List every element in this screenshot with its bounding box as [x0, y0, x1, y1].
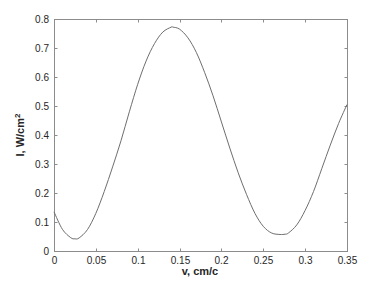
y-tick-label: 0.4 — [35, 130, 49, 141]
x-axis-label: v, cm/c — [182, 265, 219, 277]
y-axis-label-superscript: 2 — [13, 113, 22, 118]
x-tick-label: 0.1 — [132, 255, 146, 266]
x-tick-label: 0.35 — [338, 255, 358, 266]
y-tick-label: 0 — [43, 246, 49, 257]
y-tick-label: 0.2 — [35, 188, 49, 199]
x-tick-label: 0.25 — [254, 255, 274, 266]
y-tick-label: 0.8 — [35, 14, 49, 25]
x-tick-label: 0 — [52, 255, 58, 266]
y-tick-label: 0.7 — [35, 43, 49, 54]
y-tick-label: 0.6 — [35, 72, 49, 83]
y-tick-label: 0.3 — [35, 159, 49, 170]
x-tick-label: 0.05 — [87, 255, 107, 266]
x-tick-label: 0.3 — [299, 255, 313, 266]
data-line — [54, 27, 347, 239]
y-tick-label: 0.5 — [35, 101, 49, 112]
axis-ticks — [55, 20, 348, 252]
y-axis-label: I, W/cm2 — [13, 113, 26, 157]
y-tick-label: 0.1 — [35, 217, 49, 228]
line-chart: 00.050.10.150.20.250.30.35 00.10.20.30.4… — [0, 0, 371, 292]
y-tick-labels: 00.10.20.30.40.50.60.70.8 — [35, 14, 49, 257]
plot-axes — [55, 20, 348, 252]
y-axis-label-base: I, W/cm — [14, 118, 26, 157]
axes-box — [55, 20, 348, 252]
